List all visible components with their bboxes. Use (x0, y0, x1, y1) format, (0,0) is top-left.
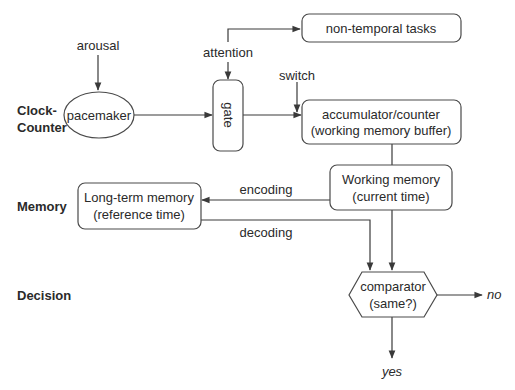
edge-attention-nontemporal (228, 29, 300, 42)
label-no: no (487, 287, 501, 302)
label-arousal: arousal (77, 38, 120, 53)
row-label-decision: Decision (17, 288, 71, 303)
row-label-counter: Counter (17, 120, 67, 135)
node-comparator: comparator (same?) (349, 272, 437, 317)
long-term-memory-label-line2: (reference time) (93, 207, 185, 222)
node-gate: gate (213, 80, 243, 151)
row-label-memory: Memory (17, 199, 68, 214)
label-yes: yes (381, 364, 403, 379)
long-term-memory-label-line1: Long-term memory (84, 190, 194, 205)
node-non-temporal-tasks: non-temporal tasks (302, 14, 461, 42)
label-attention: attention (203, 45, 253, 60)
working-memory-label-line1: Working memory (342, 172, 441, 187)
node-pacemaker: pacemaker (64, 92, 134, 138)
pacemaker-label: pacemaker (67, 108, 132, 123)
label-switch: switch (279, 68, 315, 83)
working-memory-label-line2: (current time) (352, 189, 429, 204)
gate-label: gate (221, 102, 236, 127)
node-accumulator: accumulator/counter (working memory buff… (302, 100, 461, 144)
node-long-term-memory: Long-term memory (reference time) (78, 183, 201, 229)
node-working-memory: Working memory (current time) (330, 165, 452, 210)
label-encoding: encoding (240, 182, 293, 197)
label-decoding: decoding (240, 225, 293, 240)
comparator-label-line1: comparator (360, 279, 426, 294)
comparator-label-line2: (same?) (369, 296, 417, 311)
accumulator-label-line1: accumulator/counter (322, 107, 440, 122)
row-label-clock: Clock- (17, 103, 57, 118)
non-temporal-label: non-temporal tasks (326, 21, 437, 36)
accumulator-label-line2: (working memory buffer) (311, 123, 452, 138)
diagram-canvas: Clock- Counter Memory Decision arousal a… (0, 0, 515, 390)
